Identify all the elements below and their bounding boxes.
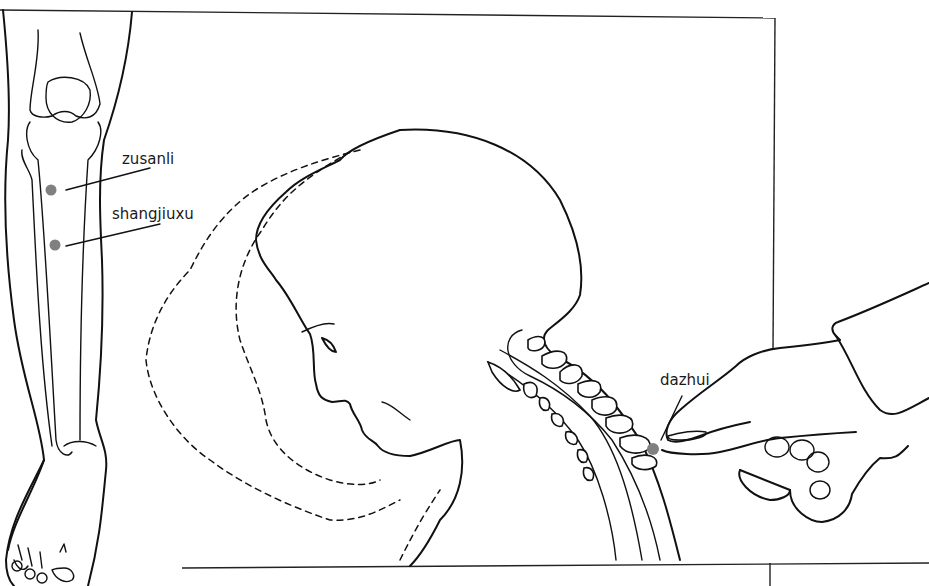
zusanli-label: zusanli [122, 150, 174, 168]
dazhui-label: dazhui [660, 371, 710, 389]
zusanli-point [46, 185, 57, 196]
frame [0, 10, 929, 586]
shangjiuxu-point [50, 240, 61, 251]
head-illustration [256, 130, 680, 566]
illustration-canvas [0, 0, 929, 586]
dazhui-point [647, 443, 659, 455]
spine-illustration [488, 330, 660, 560]
hand-illustration [662, 283, 929, 522]
shangjiuxu-label: shangjiuxu [112, 205, 194, 223]
leg-illustration [3, 10, 132, 586]
